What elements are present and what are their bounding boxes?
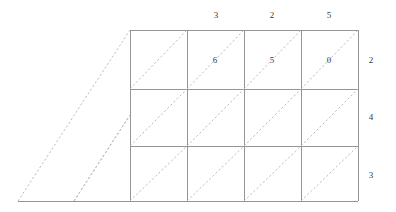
right-label-3: 3	[369, 171, 374, 180]
cell-diagonal	[187, 146, 244, 201]
top-label-3: 5	[327, 11, 332, 20]
cell-diagonal	[187, 89, 244, 146]
top-label-1: 3	[214, 11, 219, 20]
grid-lines	[18, 30, 358, 201]
cell-diagonal	[130, 146, 187, 201]
cell-diagonal	[301, 146, 358, 201]
triangle-hypotenuse	[18, 30, 130, 201]
triangle-diagonal	[74, 115, 130, 201]
cell-diagonal	[130, 30, 187, 89]
cell-diagonal	[244, 146, 301, 201]
lattice-figure: 3 2 5 6 5 0 2 4 3	[0, 0, 396, 212]
right-label-2: 4	[369, 113, 374, 122]
inner-label-1: 6	[213, 56, 218, 65]
lattice-grid-svg	[0, 0, 396, 212]
right-label-1: 2	[369, 56, 374, 65]
cell-diagonal	[130, 89, 187, 146]
cell-diagonal	[244, 89, 301, 146]
inner-label-3: 0	[327, 56, 332, 65]
top-label-2: 2	[270, 11, 275, 20]
cell-diagonal	[301, 89, 358, 146]
triangle-diagonals	[18, 30, 130, 201]
inner-label-2: 5	[270, 56, 275, 65]
